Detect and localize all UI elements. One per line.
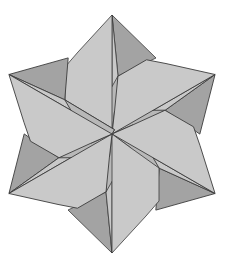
star-diagram xyxy=(0,0,225,266)
star-group xyxy=(0,15,225,253)
origami-star-figure xyxy=(0,0,225,266)
